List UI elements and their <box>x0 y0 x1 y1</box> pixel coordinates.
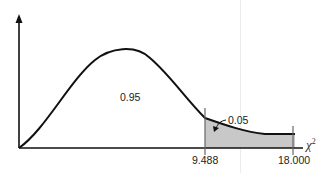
chi-exponent: 2 <box>312 137 316 146</box>
critical-value-label: 9.488 <box>192 155 218 166</box>
x-axis-label: χ2 <box>306 138 316 151</box>
chi-square-chart <box>0 0 321 173</box>
center-area-label: 0.95 <box>120 92 140 103</box>
y-axis-arrowhead-icon <box>16 14 23 23</box>
density-curve <box>19 49 295 148</box>
tail-area-label: 0.05 <box>228 115 248 126</box>
upper-value-label: 18.000 <box>278 155 310 166</box>
